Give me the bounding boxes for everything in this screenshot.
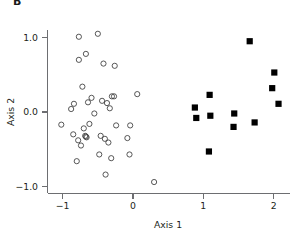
- data-point-circle: [127, 152, 132, 157]
- y-tick-label: −1.0: [15, 181, 38, 192]
- x-tick-label: 1: [200, 200, 206, 211]
- series-filled-squares: [192, 38, 282, 154]
- data-point-circle: [128, 123, 133, 128]
- data-point-circle: [85, 100, 90, 105]
- data-point-circle: [76, 57, 81, 62]
- data-point-square: [252, 119, 258, 125]
- data-point-circle: [114, 123, 119, 128]
- x-tick-label: −1: [56, 200, 70, 211]
- data-point-circle: [101, 61, 106, 66]
- data-point-circle: [151, 179, 156, 184]
- x-tick-label: 2: [271, 200, 277, 211]
- data-point-circle: [76, 34, 81, 39]
- data-point-circle: [87, 121, 92, 126]
- data-point-square: [247, 38, 253, 44]
- data-point-square: [269, 85, 275, 91]
- data-point-square: [275, 101, 281, 107]
- data-point-circle: [103, 172, 108, 177]
- data-point-square: [231, 110, 237, 116]
- data-point-circle: [112, 63, 117, 68]
- x-axis-ticks: −1012: [56, 194, 277, 212]
- data-point-square: [206, 148, 212, 154]
- data-point-square: [193, 115, 199, 121]
- data-point-square: [207, 92, 213, 98]
- scatter-plot: −1012 −1.00.01.0 Axis 1 Axis 2: [0, 0, 297, 241]
- data-point-circle: [92, 111, 97, 116]
- data-point-circle: [104, 100, 109, 105]
- data-points-layer: [59, 31, 282, 184]
- data-point-circle: [76, 138, 81, 143]
- data-point-circle: [99, 98, 104, 103]
- axes: [48, 30, 291, 194]
- data-point-circle: [97, 152, 102, 157]
- data-point-circle: [109, 156, 114, 161]
- figure-panel-b: B −1012 −1.00.01.0 Axis 1 Axis 2: [0, 0, 297, 241]
- y-tick-label: 0.0: [23, 106, 38, 117]
- data-point-circle: [125, 135, 130, 140]
- y-axis-title: Axis 2: [5, 98, 16, 126]
- data-point-circle: [107, 106, 112, 111]
- data-point-circle: [135, 92, 140, 97]
- data-point-circle: [95, 31, 100, 36]
- data-point-circle: [78, 143, 83, 148]
- data-point-square: [230, 124, 236, 130]
- data-point-circle: [81, 126, 86, 131]
- data-point-circle: [71, 132, 76, 137]
- data-point-circle: [80, 84, 85, 89]
- data-point-square: [207, 113, 213, 119]
- data-point-square: [192, 104, 198, 110]
- y-tick-label: 1.0: [23, 32, 38, 43]
- x-tick-label: 0: [130, 200, 136, 211]
- data-point-circle: [106, 140, 111, 145]
- data-point-circle: [74, 159, 79, 164]
- series-open-circles: [59, 31, 157, 184]
- data-point-circle: [83, 51, 88, 56]
- data-point-circle: [69, 106, 74, 111]
- data-point-circle: [89, 95, 94, 100]
- data-point-square: [271, 69, 277, 75]
- x-axis-title: Axis 1: [154, 219, 182, 230]
- data-point-circle: [71, 101, 76, 106]
- data-point-circle: [59, 122, 64, 127]
- y-axis-ticks: −1.00.01.0: [15, 32, 47, 192]
